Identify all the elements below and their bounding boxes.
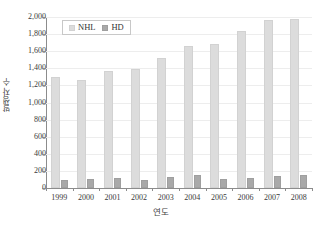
bar-hd-2004[interactable] [194, 175, 201, 188]
x-tick-label-2001: 2001 [99, 193, 126, 202]
bar-hd-2006[interactable] [247, 178, 254, 188]
x-tick-mark [259, 188, 260, 191]
bar-nhl-1999[interactable] [51, 77, 60, 188]
bar-group [259, 17, 286, 188]
y-tick-label: 1,400 [4, 64, 46, 72]
legend-label-hd: HD [111, 23, 123, 32]
bar-nhl-2003[interactable] [157, 58, 166, 188]
y-tick-label: 1,800 [4, 30, 46, 38]
y-tick-label: 0 [4, 184, 46, 192]
x-tick-label-2005: 2005 [206, 193, 233, 202]
legend: NHL HD [62, 20, 131, 35]
bar-hd-2007[interactable] [274, 176, 281, 188]
bar-hd-2008[interactable] [300, 175, 307, 188]
x-tick-mark [73, 188, 74, 191]
bar-group [46, 17, 73, 188]
y-tick-label: 400 [4, 150, 46, 158]
bar-group [179, 17, 206, 188]
bar-group [285, 17, 312, 188]
bar-chart: 발생자 수 02004006008001,0001,2001,4001,6001… [0, 0, 321, 226]
x-axis-title: 연도 [0, 205, 321, 217]
x-tick-label-2006: 2006 [232, 193, 259, 202]
x-tick-mark [312, 188, 313, 191]
x-tick-label-2000: 2000 [73, 193, 100, 202]
bar-nhl-2002[interactable] [131, 69, 140, 188]
x-tick-label-2002: 2002 [126, 193, 153, 202]
x-tick-mark [99, 188, 100, 191]
bar-nhl-2001[interactable] [104, 71, 113, 188]
x-tick-label-2008: 2008 [285, 193, 312, 202]
x-tick-label-1999: 1999 [46, 193, 73, 202]
bar-group [206, 17, 233, 188]
bar-group [99, 17, 126, 188]
y-axis: 02004006008001,0001,2001,4001,6001,8002,… [0, 17, 46, 189]
bar-nhl-2008[interactable] [290, 19, 299, 188]
x-tick-mark [179, 188, 180, 191]
y-tick-label: 2,000 [4, 13, 46, 21]
x-tick-mark [206, 188, 207, 191]
bar-hd-2003[interactable] [167, 177, 174, 188]
y-tick-label: 800 [4, 116, 46, 124]
bar-hd-2005[interactable] [220, 179, 227, 188]
bar-hd-2002[interactable] [141, 180, 148, 188]
bar-group [152, 17, 179, 188]
legend-label-nhl: NHL [78, 23, 95, 32]
x-tick-mark [232, 188, 233, 191]
legend-swatch-nhl-icon [69, 25, 75, 31]
bar-group [73, 17, 100, 188]
x-tick-mark [46, 188, 47, 191]
legend-swatch-hd-icon [102, 25, 108, 31]
plot-area [46, 17, 312, 188]
bar-hd-2001[interactable] [114, 178, 121, 188]
x-tick-mark [152, 188, 153, 191]
x-tick-label-2004: 2004 [179, 193, 206, 202]
bar-hd-2000[interactable] [87, 179, 94, 188]
y-tick-label: 200 [4, 167, 46, 175]
y-tick-label: 1,600 [4, 47, 46, 55]
bar-nhl-2000[interactable] [77, 80, 86, 188]
y-tick-label: 1,000 [4, 99, 46, 107]
bar-nhl-2007[interactable] [264, 20, 273, 188]
bar-group [232, 17, 259, 188]
legend-item-hd[interactable]: HD [102, 23, 123, 32]
x-tick-mark [126, 188, 127, 191]
bar-group [126, 17, 153, 188]
x-tick-label-2007: 2007 [259, 193, 286, 202]
bar-nhl-2006[interactable] [237, 31, 246, 188]
y-tick-label: 1,200 [4, 81, 46, 89]
y-tick-label: 600 [4, 133, 46, 141]
x-tick-mark [285, 188, 286, 191]
bar-hd-1999[interactable] [61, 180, 68, 188]
legend-item-nhl[interactable]: NHL [69, 23, 95, 32]
bar-nhl-2004[interactable] [184, 46, 193, 188]
x-tick-label-2003: 2003 [152, 193, 179, 202]
bar-nhl-2005[interactable] [210, 44, 219, 188]
